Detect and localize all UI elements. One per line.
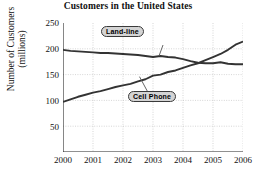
annotation-cell-phone: Cell Phone <box>128 91 176 102</box>
plot-area <box>63 23 243 152</box>
leader-line-land-line <box>159 45 163 56</box>
y-tick-50: 50 <box>33 122 59 132</box>
gridlines <box>63 23 243 152</box>
chart-container: Customers in the United States Number of… <box>0 0 256 191</box>
y-axis-label-line1: Number of Customers <box>6 7 16 91</box>
y-tick-250: 250 <box>33 18 59 28</box>
chart-title: Customers in the United States <box>0 1 256 11</box>
x-tick-2005: 2005 <box>199 155 227 165</box>
chart-svg <box>63 23 243 152</box>
x-tick-2001: 2001 <box>79 155 107 165</box>
y-axis-label-line2: (millions) <box>17 30 27 67</box>
y-tick-200: 200 <box>33 44 59 54</box>
x-tick-2003: 2003 <box>139 155 167 165</box>
x-tick-2002: 2002 <box>109 155 137 165</box>
annotation-land-line: Land-line <box>101 26 144 37</box>
x-tick-2006: 2006 <box>229 155 256 165</box>
y-tick-100: 100 <box>33 96 59 106</box>
y-axis-label: Number of Customers (millions) <box>6 0 28 114</box>
x-tick-2000: 2000 <box>49 155 77 165</box>
y-tick-150: 150 <box>33 70 59 80</box>
x-tick-2004: 2004 <box>169 155 197 165</box>
